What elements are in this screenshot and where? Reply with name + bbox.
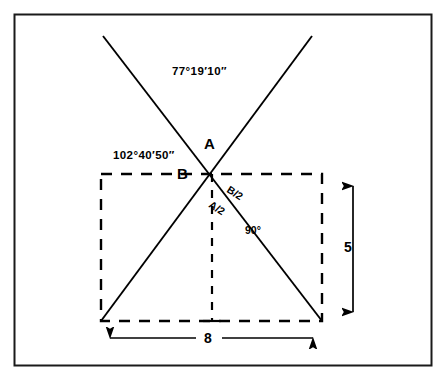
diagram-canvas: 77°19′10″ 102°40′50″ A B B/2 A/2 90° 5 8 — [0, 0, 447, 380]
angle-label-left: 102°40′50″ — [113, 150, 175, 162]
diagram-svg — [0, 0, 447, 380]
vertex-label-b: B — [177, 166, 188, 181]
vertical-dimension-label: 5 — [344, 240, 352, 254]
vertex-label-a: A — [204, 136, 215, 151]
angle-label-top: 77°19′10″ — [172, 66, 227, 78]
diagonal-line-ascending — [101, 36, 312, 321]
right-angle-label: 90° — [245, 225, 261, 236]
horizontal-dimension-label: 8 — [204, 331, 212, 345]
diagonal-line-descending — [103, 36, 322, 321]
